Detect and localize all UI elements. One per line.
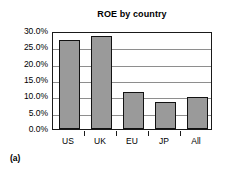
y-axis-tick-label: 0.0% bbox=[2, 125, 48, 134]
x-axis-label-eu: EU bbox=[116, 136, 148, 146]
y-axis-tick-label: 30.0% bbox=[2, 27, 48, 36]
plot-area bbox=[52, 32, 212, 130]
bar-uk bbox=[91, 36, 112, 129]
x-axis-label-all: All bbox=[180, 136, 212, 146]
y-axis-tick-label: 10.0% bbox=[2, 92, 48, 101]
y-axis-tick-label: 25.0% bbox=[2, 43, 48, 52]
y-axis-tick-label: 15.0% bbox=[2, 76, 48, 85]
bar-us bbox=[59, 40, 80, 129]
figure-panel: ROE by country 0.0%5.0%10.0%15.0%20.0%25… bbox=[0, 0, 225, 173]
x-axis-label-jp: JP bbox=[148, 136, 180, 146]
y-axis-tick-label: 5.0% bbox=[2, 109, 48, 118]
bar-eu bbox=[123, 92, 144, 129]
x-axis-label-us: US bbox=[52, 136, 84, 146]
x-axis-label-uk: UK bbox=[84, 136, 116, 146]
figure-caption: (a) bbox=[10, 153, 20, 163]
bar-all bbox=[187, 97, 208, 129]
chart-title: ROE by country bbox=[52, 9, 212, 20]
y-axis-tick-label: 20.0% bbox=[2, 60, 48, 69]
bar-jp bbox=[155, 102, 176, 129]
